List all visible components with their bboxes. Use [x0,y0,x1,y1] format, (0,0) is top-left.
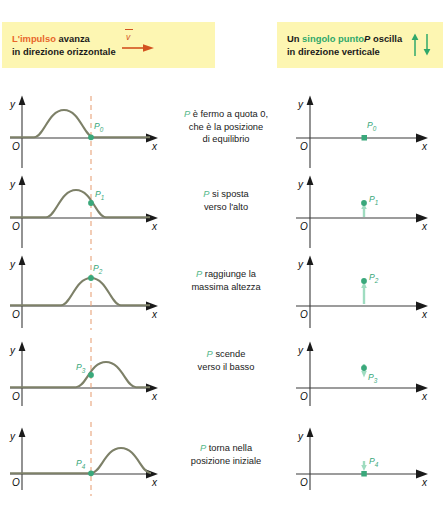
x-axis-label: x [421,477,428,488]
point-label-P2: P2 [93,263,103,275]
y-axis-label: y [297,345,304,356]
sequence-row-1: y x O P1 P si sposta verso l'alto y x O … [0,172,443,252]
banner-right-pre: Un [287,33,302,44]
point-marker-P1 [361,200,367,206]
y-axis-arrowhead [307,342,314,352]
point-label-P3: P3 [368,372,378,384]
point-marker-P1 [88,200,94,206]
origin-label: O [300,477,308,488]
x-axis-label: x [421,141,428,152]
caption-line-0-1: che è la posizione [189,122,263,132]
banner-right-line2: in direzione verticale [287,45,402,59]
y-axis-label: y [297,99,304,110]
wave-plot-row-4: y x O P4 [4,412,164,492]
y-axis-arrowhead [307,256,314,266]
point-plot-row-1: y x O P1 [288,172,440,252]
origin-label: O [12,221,20,232]
motion-arrow-down-head [361,465,367,471]
pulse-curve [10,110,150,137]
banner-left-line1: L'impulso avanza [12,32,116,46]
pulse-curve [10,190,150,217]
caption-row-2: P raggiunge la massima altezza [168,268,284,293]
origin-label: O [12,309,20,320]
x-axis-label: x [151,221,158,232]
banner-left-text: L'impulso avanza in direzione orizzontal… [12,32,116,59]
x-axis-label: x [151,309,158,320]
y-axis-label: y [9,179,16,190]
banner-right-rest: oscilla [370,33,402,44]
y-axis-arrowhead [307,428,314,438]
x-axis-label: x [151,141,158,152]
point-label-P1: P1 [369,194,379,206]
y-axis-arrowhead [307,96,314,106]
caption-line-2-0: raggiunge la [202,269,256,279]
wave-plot-row-1: y x O P1 [4,172,164,252]
point-label-P2: P2 [369,272,379,284]
vector-overbar [125,29,133,34]
sequence-row-3: y x O P3 P scende verso il basso y x O P… [0,332,443,412]
wave-plot-row-3: y x O P3 [4,332,164,412]
y-axis-arrowhead [19,342,26,352]
x-axis-label: x [151,477,158,488]
caption-line-4-0: torna nella [206,443,252,453]
origin-label: O [300,141,308,152]
banner-right-text: Un singolo puntoP oscilla in direzione v… [287,32,402,59]
y-axis-label: y [9,345,16,356]
x-axis-label: x [151,391,158,402]
caption-line-4-1: posizione iniziale [191,456,261,466]
y-axis-arrowhead [19,428,26,438]
caption-row-4: P torna nella posizione iniziale [168,442,284,467]
point-label-P1: P1 [95,189,105,201]
sequence-row-2: y x O P2 P raggiunge la massima altezza … [0,252,443,332]
pulse-curve [10,278,150,305]
y-axis-label: y [9,259,16,270]
caption-row-0: P è fermo a quota 0, che è la posizione … [168,108,284,146]
point-label-P0: P0 [367,120,377,132]
point-marker-P4 [88,470,94,476]
point-marker-P3 [361,365,367,371]
caption-row-3: P scende verso il basso [168,348,284,373]
point-plot-row-4: y x O P4 [288,412,440,492]
banner-vertical-oscillation: Un singolo puntoP oscilla in direzione v… [277,22,443,68]
point-marker-P4 [361,471,367,477]
banner-right-highlight: singolo punto [302,33,364,44]
y-axis-label: y [297,259,304,270]
x-axis-label: x [421,391,428,402]
origin-label: O [300,221,308,232]
caption-line-0-0: è fermo a quota 0, [190,109,268,119]
caption-line-3-0: scende [213,349,246,359]
caption-line-2-1: massima altezza [191,282,260,292]
y-axis-arrowhead [19,176,26,186]
point-marker-P3 [88,372,94,378]
up-down-arrows-icon [409,33,435,57]
point-plot-row-3: y x O P3 [288,332,440,412]
y-axis-label: y [297,431,304,442]
point-plot-row-0: y x O P0 [288,92,440,172]
origin-label: O [12,141,20,152]
banner-left-rest: avanza [56,33,90,44]
sequence-row-0: y x O P0 P è fermo a quota 0, che è la p… [0,92,443,172]
banner-left-highlight: L'impulso [12,33,56,44]
sequence-row-4: y x O P4 P torna nella posizione inizial… [0,412,443,492]
origin-label: O [12,391,20,402]
point-label-P4: P4 [369,456,379,468]
banner-right-line1: Un singolo puntoP oscilla [287,32,402,46]
caption-line-1-0: si sposta [209,189,248,199]
origin-label: O [300,391,308,402]
point-marker-P2 [361,278,367,284]
point-marker-P0 [88,134,94,140]
x-axis-label: x [421,309,428,320]
banner-left-line2: in direzione orizzontale [12,45,116,59]
motion-arrow-down-head [361,371,367,378]
point-marker-P2 [88,275,94,281]
caption-line-3-1: verso il basso [198,362,255,372]
wave-plot-row-0: y x O P0 [4,92,164,172]
y-axis-label: y [9,99,16,110]
point-plot-row-2: y x O P2 [288,252,440,332]
y-axis-arrowhead [19,96,26,106]
point-label-P3: P3 [76,362,86,374]
y-axis-arrowhead [19,256,26,266]
caption-row-1: P si sposta verso l'alto [168,188,284,213]
point-label-P0: P0 [94,121,104,133]
y-axis-label: y [9,431,16,442]
